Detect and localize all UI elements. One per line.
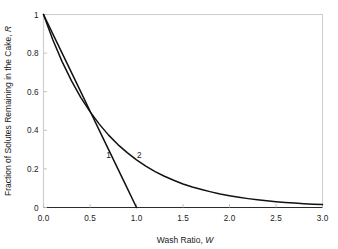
x-tick-label-1: 0.5 xyxy=(84,214,96,223)
x-axis-title: Wash Ratio, W xyxy=(157,235,214,245)
chart-background xyxy=(0,0,338,249)
x-tick-label-5: 2.5 xyxy=(270,214,282,223)
y-tick-label-1: 0.2 xyxy=(27,165,39,174)
x-tick-label-4: 2.0 xyxy=(224,214,236,223)
y-tick-label-2: 0.4 xyxy=(27,126,39,135)
chart-figure: 0.00.51.01.52.02.53.0 00.20.40.60.81 12 … xyxy=(0,0,338,249)
x-tick-label-2: 1.0 xyxy=(131,214,143,223)
curve-label-1: 1 xyxy=(106,151,111,160)
y-tick-label-0: 0 xyxy=(34,204,39,213)
y-tick-label-4: 0.8 xyxy=(27,49,39,58)
x-tick-label-6: 3.0 xyxy=(317,214,329,223)
x-tick-label-3: 1.5 xyxy=(177,214,189,223)
x-tick-label-0: 0.0 xyxy=(38,214,50,223)
y-tick-label-5: 1 xyxy=(34,11,39,20)
curve-label-2: 2 xyxy=(137,151,142,160)
y-axis-title: Fraction of Solutes Remaining in the Cak… xyxy=(3,26,13,196)
chart-svg: 0.00.51.01.52.02.53.0 00.20.40.60.81 12 … xyxy=(0,0,338,249)
y-tick-label-3: 0.6 xyxy=(27,88,39,97)
